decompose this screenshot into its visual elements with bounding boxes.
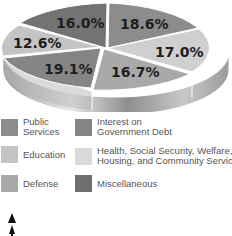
- legend-item-education: Education: [1, 146, 65, 163]
- legend-item-interest: Interest onGovernment Debt: [75, 117, 172, 137]
- legend-item-health: Health, Social Security, Welfare,Housing…: [75, 146, 232, 166]
- legend-swatch: [1, 119, 18, 136]
- pie-chart: 16.0% 18.6% 17.0% 16.7% 19.1% 12.6%: [0, 0, 232, 112]
- slice-label-defense: 16.7%: [111, 64, 160, 80]
- slice-label-interest: 19.1%: [44, 61, 93, 77]
- legend-swatch: [1, 175, 18, 192]
- slice-label-education: 12.6%: [13, 35, 62, 51]
- legend-swatch: [75, 175, 92, 192]
- up-arrow-icon: [8, 213, 16, 236]
- legend-item-miscellaneous: Miscellaneous: [75, 175, 157, 192]
- legend-swatch: [75, 148, 92, 165]
- legend-item-defense: Defense: [1, 175, 58, 192]
- slice-label-public-services: 18.6%: [120, 16, 169, 32]
- legend-swatch: [1, 146, 18, 163]
- slice-label-miscellaneous: 16.0%: [56, 15, 105, 31]
- legend-swatch: [75, 119, 92, 136]
- legend-item-public-services: PublicServices: [1, 117, 59, 137]
- slice-label-health: 17.0%: [155, 44, 204, 60]
